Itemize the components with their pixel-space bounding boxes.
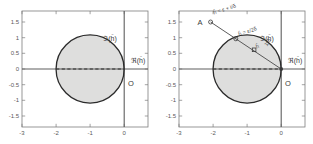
- figure-container: 1.5 1 0.5 0 -0.5 -1 -1.5 -3 -2 -1 0 ℑ(ĥ)…: [0, 0, 313, 144]
- x-tick-label: -2: [53, 130, 59, 136]
- x-tick-label: -1: [87, 130, 93, 136]
- x-tick-label: 0: [280, 130, 284, 136]
- x-tick-label: -3: [176, 130, 182, 136]
- origin-label: O: [128, 79, 134, 88]
- y-tick-label: -1: [14, 97, 20, 103]
- y-tick-label: -1.5: [9, 113, 20, 119]
- x-tick-label: 0: [123, 130, 127, 136]
- chart-panel-left: 1.5 1 0.5 0 -0.5 -1 -1.5 -3 -2 -1 0 ℑ(ĥ)…: [0, 0, 157, 144]
- y-tick-label: 1: [16, 35, 20, 41]
- x-tick-labels: -3 -2 -1 0: [176, 130, 283, 136]
- real-axis-label: ℜ(ĥ): [288, 56, 303, 65]
- slope-annotation: ĥ = ε + i/δ: [212, 3, 236, 16]
- point-origin-marker: [279, 67, 283, 71]
- y-tick-label: -0.5: [9, 82, 20, 88]
- x-tick-labels: -3 -2 -1 0: [19, 130, 126, 136]
- y-tick-label: -1: [171, 97, 177, 103]
- origin-label: O: [285, 79, 291, 88]
- y-tick-labels: 1.5 1 0.5 0 -0.5 -1 -1.5: [166, 19, 177, 119]
- x-tick-label: -2: [210, 130, 216, 136]
- y-tick-label: 0.5: [11, 50, 20, 56]
- imaginary-axis-label: ℑ(ĥ): [260, 34, 274, 43]
- x-tick-label: -1: [244, 130, 250, 136]
- y-tick-label: 1: [173, 35, 177, 41]
- real-axis-label: ℜ(ĥ): [131, 56, 146, 65]
- y-tick-label: 0: [16, 66, 20, 72]
- point-A-label: A: [197, 18, 202, 27]
- y-tick-label: -0.5: [166, 82, 177, 88]
- imaginary-axis-label: ℑ(ĥ): [103, 34, 117, 43]
- chart-panel-right: 1.5 1 0.5 0 -0.5 -1 -1.5 -3 -2 -1 0 A: [157, 0, 313, 144]
- y-tick-label: 1.5: [168, 19, 177, 25]
- y-tick-label: 1.5: [11, 19, 20, 25]
- y-tick-label: -1.5: [166, 113, 177, 119]
- y-tick-label: 0: [173, 66, 177, 72]
- x-tick-label: -3: [19, 130, 25, 136]
- y-tick-labels: 1.5 1 0.5 0 -0.5 -1 -1.5: [9, 19, 20, 119]
- y-tick-label: 0.5: [168, 50, 177, 56]
